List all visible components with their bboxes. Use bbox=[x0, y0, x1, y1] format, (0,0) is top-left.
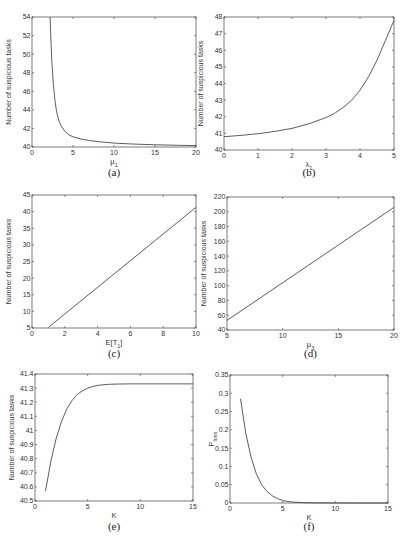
x-tick-label: 2 bbox=[290, 152, 294, 159]
y-tick-label: 52 bbox=[23, 32, 31, 39]
y-tick-label: 40.9 bbox=[20, 441, 34, 448]
subfigure-caption: (d) bbox=[304, 347, 317, 360]
y-tick-label: 40.7 bbox=[20, 469, 34, 476]
chart-d: 5101520406080100120140160180200220μ3Numb… bbox=[200, 193, 398, 360]
subfigure-caption: (b) bbox=[303, 166, 316, 179]
x-tick-label: 5 bbox=[281, 505, 285, 512]
x-tick-label: 0 bbox=[222, 152, 226, 159]
y-tick-label: 40 bbox=[218, 326, 226, 333]
data-series-line bbox=[224, 20, 394, 136]
y-tick-label: 40 bbox=[23, 143, 31, 150]
subfigure-caption: (e) bbox=[108, 520, 121, 533]
x-tick-label: 5 bbox=[71, 149, 75, 156]
y-tick-label: 47 bbox=[215, 30, 223, 37]
y-tick-label: 0.15 bbox=[215, 445, 229, 452]
axes-frame bbox=[32, 195, 196, 328]
x-tick-label: 5 bbox=[86, 503, 90, 510]
y-tick-label: 40 bbox=[23, 208, 31, 215]
x-tick-label: 4 bbox=[96, 330, 100, 337]
y-tick-label: 40.6 bbox=[20, 483, 34, 490]
x-axis-label: K bbox=[111, 511, 116, 520]
axes-frame bbox=[230, 375, 388, 503]
data-series-line bbox=[50, 17, 196, 146]
y-tick-label: 120 bbox=[214, 267, 226, 274]
y-tick-label: 41.4 bbox=[20, 370, 34, 377]
x-tick-label: 10 bbox=[279, 332, 287, 339]
x-tick-label: 15 bbox=[189, 503, 197, 510]
x-tick-label: 10 bbox=[110, 149, 118, 156]
y-tick-label: 54 bbox=[23, 13, 31, 20]
y-tick-label: 100 bbox=[214, 282, 226, 289]
y-axis-label: Number of suspicious tasks bbox=[5, 39, 13, 125]
y-tick-label: 200 bbox=[214, 208, 226, 215]
axes-frame bbox=[224, 17, 394, 150]
x-tick-label: 3 bbox=[324, 152, 328, 159]
x-tick-label: 0 bbox=[228, 505, 232, 512]
x-tick-label: 15 bbox=[334, 332, 342, 339]
y-tick-label: 41 bbox=[215, 130, 223, 137]
chart-e: 05101540.540.640.740.840.94141.141.241.3… bbox=[8, 370, 197, 533]
x-tick-label: 20 bbox=[390, 332, 398, 339]
x-tick-label: 4 bbox=[358, 152, 362, 159]
x-tick-label: 6 bbox=[128, 330, 132, 337]
y-tick-label: 44 bbox=[215, 80, 223, 87]
x-tick-label: 1 bbox=[256, 152, 260, 159]
y-axis-label: Number of suspicious tasks bbox=[197, 40, 205, 126]
y-tick-label: 25 bbox=[23, 258, 31, 265]
y-axis-label: Number of suspicious tasks bbox=[5, 218, 13, 304]
x-tick-label: 8 bbox=[161, 330, 165, 337]
y-tick-label: 0.35 bbox=[215, 371, 229, 378]
subfigure-caption: (c) bbox=[108, 347, 121, 360]
y-tick-label: 50 bbox=[23, 51, 31, 58]
y-tick-label: 40 bbox=[215, 146, 223, 153]
y-tick-label: 48 bbox=[215, 13, 223, 20]
y-tick-label: 45 bbox=[215, 63, 223, 70]
y-tick-label: 45 bbox=[23, 191, 31, 198]
y-tick-label: 42 bbox=[23, 125, 31, 132]
x-tick-label: 10 bbox=[331, 505, 339, 512]
y-tick-label: 40.8 bbox=[20, 455, 34, 462]
y-tick-label: 0.05 bbox=[215, 481, 229, 488]
subfigure-caption: (f) bbox=[304, 520, 315, 533]
y-tick-label: 46 bbox=[215, 47, 223, 54]
y-tick-label: 41 bbox=[26, 427, 34, 434]
x-tick-label: 5 bbox=[225, 332, 229, 339]
y-tick-label: 220 bbox=[214, 193, 226, 200]
y-axis-label: Number of suspicious tasks bbox=[200, 220, 208, 306]
x-tick-label: 15 bbox=[151, 149, 159, 156]
y-tick-label: 180 bbox=[214, 223, 226, 230]
y-tick-label: 46 bbox=[23, 88, 31, 95]
chart-a: 051015204042444648505254μ1Number of susp… bbox=[5, 13, 200, 179]
x-tick-label: 15 bbox=[384, 505, 392, 512]
y-tick-label: 5 bbox=[27, 324, 31, 331]
chart-b: 012345404142434445464748λ1Number of susp… bbox=[197, 13, 396, 179]
y-tick-label: 41.3 bbox=[20, 385, 34, 392]
chart-c: 024681051015202530354045E[T1]Number of s… bbox=[5, 191, 200, 360]
y-tick-label: 35 bbox=[23, 225, 31, 232]
y-tick-label: 80 bbox=[218, 297, 226, 304]
y-tick-label: 0.2 bbox=[219, 426, 229, 433]
y-tick-label: 140 bbox=[214, 253, 226, 260]
x-tick-label: 0 bbox=[30, 330, 34, 337]
y-tick-label: 42 bbox=[215, 113, 223, 120]
y-tick-label: 41.1 bbox=[20, 413, 34, 420]
x-tick-label: 0 bbox=[30, 149, 34, 156]
y-tick-label: 60 bbox=[218, 312, 226, 319]
axes-frame bbox=[32, 17, 196, 147]
data-series-line bbox=[48, 207, 196, 327]
y-tick-label: 15 bbox=[23, 291, 31, 298]
data-series-line bbox=[46, 384, 193, 491]
x-tick-label: 10 bbox=[136, 503, 144, 510]
y-tick-label: 20 bbox=[23, 275, 31, 282]
x-tick-label: 2 bbox=[63, 330, 67, 337]
y-tick-label: 43 bbox=[215, 97, 223, 104]
y-tick-label: 160 bbox=[214, 238, 226, 245]
y-tick-label: 44 bbox=[23, 106, 31, 113]
data-series-line bbox=[241, 399, 388, 503]
x-tick-label: 20 bbox=[192, 149, 200, 156]
y-tick-label: 0.1 bbox=[219, 463, 229, 470]
figure-panel-grid: 051015204042444648505254μ1Number of susp… bbox=[0, 0, 407, 545]
y-tick-label: 0.25 bbox=[215, 408, 229, 415]
data-series-line bbox=[227, 207, 394, 320]
x-tick-label: 5 bbox=[392, 152, 396, 159]
